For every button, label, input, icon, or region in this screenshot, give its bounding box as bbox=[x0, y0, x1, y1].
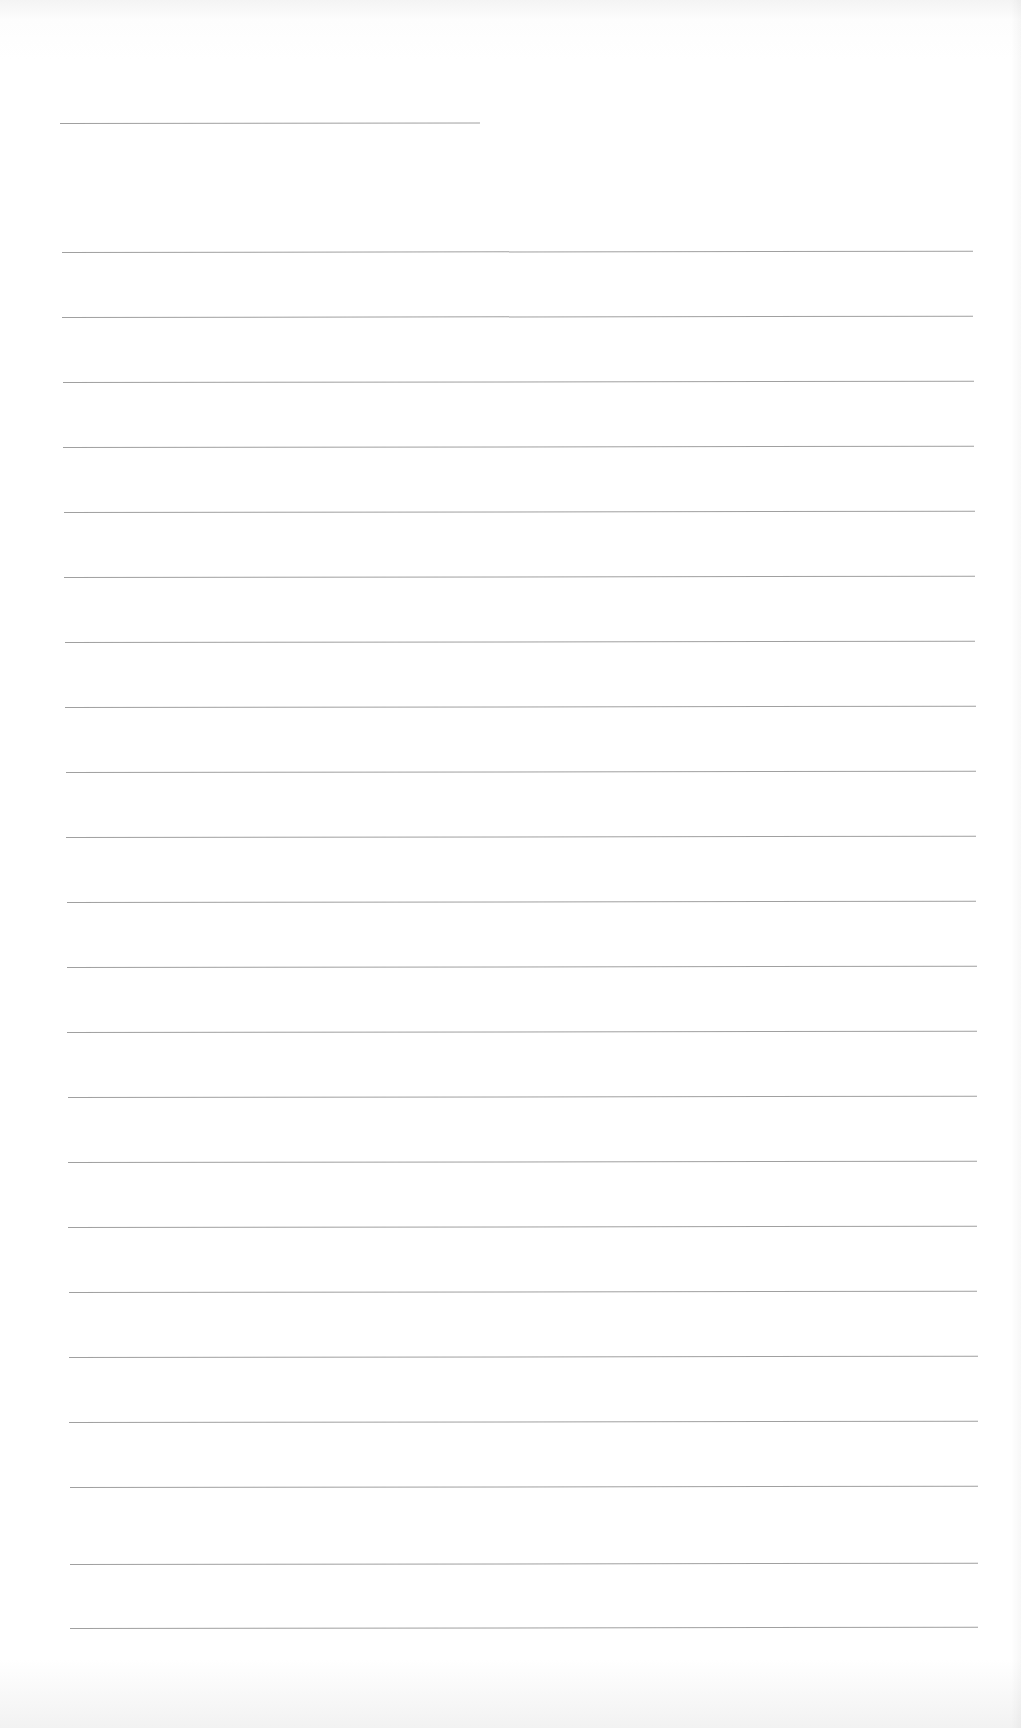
rule-line bbox=[66, 836, 976, 838]
rule-line bbox=[64, 576, 975, 578]
rule-line bbox=[68, 1161, 977, 1163]
header-rule-line bbox=[60, 123, 480, 124]
rule-line bbox=[66, 771, 976, 773]
rule-line bbox=[69, 1421, 978, 1423]
rule-line bbox=[69, 1291, 977, 1293]
rule-line bbox=[62, 251, 973, 253]
rule-line bbox=[67, 1031, 977, 1033]
rule-line bbox=[70, 1486, 978, 1488]
paper-edge-shadow bbox=[1011, 0, 1021, 1728]
rule-line bbox=[68, 1226, 977, 1228]
rule-line bbox=[64, 511, 975, 513]
rule-line bbox=[65, 706, 976, 708]
rule-line bbox=[70, 1563, 978, 1565]
rule-line bbox=[63, 381, 974, 383]
rule-line bbox=[68, 1096, 977, 1098]
rule-line bbox=[70, 1627, 978, 1629]
rule-line bbox=[69, 1356, 978, 1358]
rule-line bbox=[67, 901, 976, 903]
rule-line bbox=[65, 641, 975, 643]
rule-line bbox=[62, 316, 973, 318]
lined-paper-sheet bbox=[0, 0, 1021, 1728]
rule-line bbox=[63, 446, 974, 448]
rule-line bbox=[67, 966, 977, 968]
